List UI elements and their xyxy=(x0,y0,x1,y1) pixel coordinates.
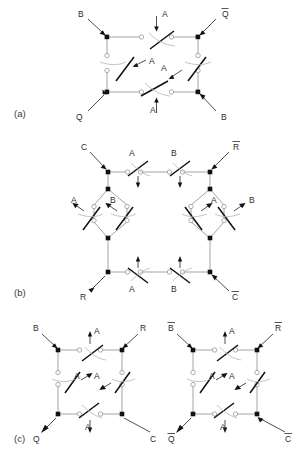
terminal-label-c-right-bottom-left-group: Q xyxy=(168,434,176,445)
switch-label-b-bottom-first: A xyxy=(129,284,135,294)
node-dot xyxy=(56,412,61,417)
node-dot xyxy=(208,270,213,275)
switch-b-bottom-first[interactable] xyxy=(125,256,150,283)
switch-c-left-top[interactable] xyxy=(77,331,106,361)
panel-caption-a: (a) xyxy=(14,108,26,119)
switch-label-b-bottom-second: B xyxy=(171,284,177,294)
switch-label-c-left-right-alt: A xyxy=(74,371,80,381)
terminal-label-a-bottom-left: Q xyxy=(76,112,83,122)
switch-label-c-left-bottom: A xyxy=(85,422,91,432)
panel-b-wires xyxy=(94,172,224,272)
terminal-label-c-right-bottom-left: Q xyxy=(168,434,175,444)
figure-canvas: B Q Q B A A A A (a) xyxy=(0,0,305,453)
switch-b-right-outer[interactable] xyxy=(215,203,246,230)
panel-c-left-wires xyxy=(58,350,122,414)
panel-a: B Q Q B A A A A (a) xyxy=(14,9,229,123)
node-dot xyxy=(56,348,61,353)
terminal-label-a-top-right: Q xyxy=(222,9,229,19)
switch-a-bottom[interactable] xyxy=(139,81,173,113)
switch-b-left-inner[interactable] xyxy=(105,203,136,230)
switch-label-c-left-left: A xyxy=(94,371,100,381)
panel-b: C R R C A B A B A B A B (b) xyxy=(14,142,255,303)
node-dot xyxy=(191,348,196,353)
terminal-label-a-top-left: B xyxy=(78,9,84,19)
switch-b-left-outer[interactable] xyxy=(72,203,103,230)
switch-label-b-top-first: A xyxy=(129,148,135,158)
switch-a-top[interactable] xyxy=(139,16,175,49)
terminal-label-c-left-bottom-left: Q xyxy=(33,434,40,444)
node-dot xyxy=(255,348,260,353)
switch-label-b-right-inner: A xyxy=(211,195,217,205)
switch-label-b-right-outer: B xyxy=(249,195,255,205)
switch-c-right-top[interactable] xyxy=(212,331,241,361)
switch-label-b-left-inner: B xyxy=(110,195,116,205)
switch-label-a-right: A xyxy=(161,63,167,73)
circuit-svg: B Q Q B A A A A (a) xyxy=(0,0,305,453)
switch-label-c-right-right: A xyxy=(209,371,215,381)
switch-label-a-left: A xyxy=(149,56,155,66)
terminal-label-c-right-top-right: R xyxy=(275,323,281,333)
switch-label-c-right-bottom: A xyxy=(220,422,226,432)
switch-label-a-top: A xyxy=(162,9,168,19)
switch-label-c-right-top: A xyxy=(229,326,235,336)
node-dot xyxy=(120,412,125,417)
terminal-label-b-bottom-left: R xyxy=(80,292,86,302)
switch-label-b-top-second: B xyxy=(171,148,177,158)
terminal-label-b-bottom-right: C xyxy=(232,292,238,302)
switch-b-top-first[interactable] xyxy=(125,161,150,188)
switch-label-b-left-outer: A xyxy=(71,195,77,205)
node-dot xyxy=(255,412,260,417)
switch-label-c-right-left: A xyxy=(229,371,235,381)
terminal-label-a-top-right-group: Q xyxy=(222,9,230,20)
terminal-label-b-top-left: C xyxy=(81,142,87,152)
terminal-label-b-top-right: R xyxy=(233,142,239,152)
terminal-label-c-right-bottom-right: C xyxy=(285,434,291,444)
switch-a-right[interactable] xyxy=(169,53,211,81)
panel-caption-c: (c) xyxy=(14,433,25,444)
node-dot xyxy=(191,412,196,417)
node-dot xyxy=(106,236,111,241)
node-dot xyxy=(208,187,213,192)
terminal-label-c-right-top-left: B xyxy=(168,323,174,333)
switch-label-c-left-top: A xyxy=(94,326,100,336)
terminal-label-b-top-right-group: R xyxy=(233,142,241,153)
node-dot xyxy=(196,90,201,95)
switch-b-right-inner[interactable] xyxy=(182,203,213,230)
terminal-label-c-left-top-right: R xyxy=(140,323,146,333)
terminal-label-c-left-top-left: B xyxy=(33,323,39,333)
node-dot xyxy=(208,170,213,175)
switch-b-bottom-second[interactable] xyxy=(167,256,192,283)
panel-caption-b: (b) xyxy=(14,287,26,298)
node-dot xyxy=(106,170,111,175)
node-dot xyxy=(120,348,125,353)
node-dot xyxy=(208,236,213,241)
switch-label-a-bottom: A xyxy=(150,105,156,115)
node-dot xyxy=(196,35,201,40)
panel-c-right-wires xyxy=(193,350,257,414)
terminal-label-c-left-bottom-right: C xyxy=(150,434,156,444)
switch-c-left-right[interactable] xyxy=(99,370,135,393)
terminal-label-c-right-top-left-group: B xyxy=(168,323,176,334)
terminal-label-b-bottom-right-group: C xyxy=(232,292,240,303)
terminal-label-a-bottom-right: B xyxy=(221,112,227,122)
switch-c-right-right[interactable] xyxy=(234,370,270,393)
node-dot xyxy=(106,187,111,192)
node-dot xyxy=(106,270,111,275)
switch-b-top-second[interactable] xyxy=(167,161,192,188)
panel-c-right-subcircuit: B R Q C A A A A xyxy=(168,323,293,445)
terminal-label-c-right-bottom-right-group: C xyxy=(285,434,293,445)
panel-c-left-subcircuit: B R Q C A A A A xyxy=(33,323,156,444)
terminal-label-c-right-top-right-group: R xyxy=(275,323,283,334)
